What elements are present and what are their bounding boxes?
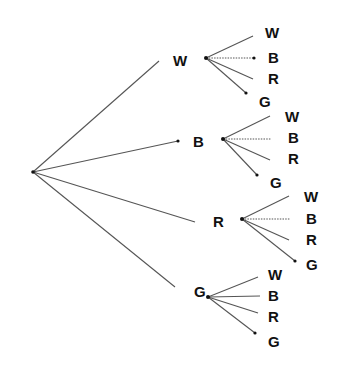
tree-labels: WWBRGBWBRGRWBRGGWBRG	[173, 24, 319, 350]
edge-G-to-W	[208, 277, 258, 297]
leaf-label-RB: B	[306, 210, 317, 227]
branch-node-G	[206, 295, 210, 299]
leaf-label-GR: R	[268, 308, 279, 325]
edge-B-to-W	[223, 116, 270, 139]
edge-end-dot	[176, 139, 179, 142]
branch-node-B	[221, 137, 225, 141]
leaf-label-RG: G	[306, 256, 318, 273]
edge-G-to-R	[208, 297, 258, 313]
leaf-label-RR: R	[306, 231, 317, 248]
leaf-label-GW: W	[268, 266, 283, 283]
leaf-label-RW: W	[304, 188, 319, 205]
tree-nodes	[31, 56, 296, 335]
branch-node-R	[240, 217, 244, 221]
leaf-label-WB: B	[268, 49, 279, 66]
leaf-label-WW: W	[265, 24, 280, 41]
leaf-dot	[293, 259, 296, 262]
leaf-label-WR: R	[268, 70, 279, 87]
leaf-label-BW: W	[285, 108, 300, 125]
branch-node-W	[204, 56, 208, 60]
edge-R-to-W	[242, 196, 289, 219]
leaf-dot	[255, 173, 258, 176]
root-node	[31, 170, 35, 174]
branch-label-R: R	[213, 213, 224, 230]
leaf-label-BG: G	[270, 174, 282, 191]
branch-label-G: G	[194, 283, 206, 300]
edge-W-to-R	[206, 58, 253, 79]
leaf-dot	[244, 91, 247, 94]
leaf-label-GB: B	[268, 287, 279, 304]
edge-W-to-W	[206, 36, 253, 58]
tree-edges	[33, 36, 295, 333]
edge-root-to-G	[33, 172, 175, 287]
leaf-dot	[253, 331, 256, 334]
leaf-dot	[252, 56, 255, 59]
edge-W-to-G	[206, 58, 246, 93]
edge-root-to-R	[33, 172, 195, 222]
edge-G-to-B	[208, 296, 260, 297]
edge-B-to-G	[223, 139, 257, 175]
edge-R-to-R	[242, 219, 289, 240]
edge-R-to-G	[242, 219, 295, 261]
edge-root-to-W	[33, 61, 159, 172]
leaf-label-BR: R	[288, 150, 299, 167]
edge-root-to-B	[33, 141, 178, 172]
probability-tree-diagram: WWBRGBWBRGRWBRGGWBRG	[0, 0, 340, 367]
leaf-label-BB: B	[288, 129, 299, 146]
edge-G-to-G	[208, 297, 255, 333]
branch-label-W: W	[173, 52, 188, 69]
branch-label-B: B	[193, 133, 204, 150]
edge-B-to-R	[223, 139, 270, 160]
leaf-label-WG: G	[259, 93, 271, 110]
leaf-label-GG: G	[268, 333, 280, 350]
